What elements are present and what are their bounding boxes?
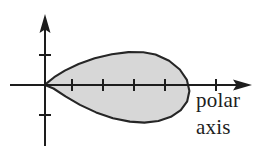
cardioid-path: [45, 52, 189, 123]
polar-curve-figure: polar axis: [0, 0, 262, 156]
vertical-axis: [40, 14, 51, 146]
polar-axis-label-line2: axis: [196, 115, 231, 140]
cardioid-curve: [45, 52, 189, 123]
polar-axis-label-line1: polar: [196, 88, 240, 113]
